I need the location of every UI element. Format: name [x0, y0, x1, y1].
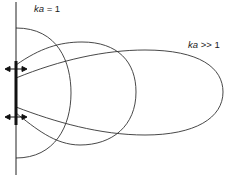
label-var: ka: [34, 3, 44, 14]
diagram-canvas: ka = 1 ka >> 1: [0, 0, 229, 179]
radiation-pattern-figure: [0, 0, 229, 179]
intermediate-lobe-curve: [16, 42, 136, 145]
label-rel: = 1: [44, 3, 60, 14]
high-ka-lobe-curve: [16, 50, 223, 135]
label-var: ka: [188, 39, 198, 50]
ka1-pattern-curve: [16, 28, 71, 158]
label-ka-much-greater-1: ka >> 1: [188, 39, 220, 50]
label-rel: >> 1: [198, 39, 220, 50]
label-ka-equals-1: ka = 1: [34, 3, 60, 14]
piston-source-bar: [15, 61, 18, 125]
